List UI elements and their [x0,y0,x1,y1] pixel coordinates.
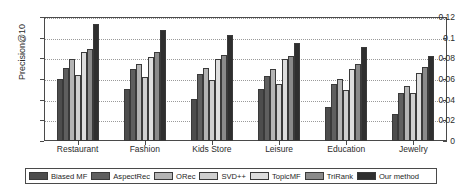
legend-swatch [250,172,269,180]
x-tick-mark [413,141,414,145]
legend-item[interactable]: AspectRec [91,172,150,181]
legend-swatch [154,172,173,180]
bar [227,35,233,141]
bar-chart-figure: Precision@10 00.020.040.060.080.10.12 Re… [0,0,460,193]
bar-group [57,17,99,141]
bar-group [124,17,166,141]
y-tick-mark [443,38,447,39]
legend-label: Our method [379,172,419,181]
bar [294,43,300,141]
x-tick-label: Jewelry [399,144,428,154]
y-tick-mark [443,100,447,101]
legend-swatch [29,172,48,180]
legend-label: SVD++ [221,172,245,181]
legend-label: TriRank [327,172,353,181]
bar-group [392,17,434,141]
y-tick-mark [443,120,447,121]
y-tick-mark [40,58,44,59]
y-tick-mark [443,79,447,80]
legend-swatch [305,172,324,180]
bar [160,30,166,141]
legend-item[interactable]: TopicMF [250,172,301,181]
x-tick-mark [78,141,79,145]
x-tick-label: Kids Store [192,144,231,154]
y-tick-mark [40,141,44,142]
y-tick-mark [443,58,447,59]
x-tick-label: Restaurant [57,144,99,154]
x-tick-mark [279,141,280,145]
y-tick-mark [443,17,447,18]
legend-item[interactable]: Our method [357,172,419,181]
legend-label: ORec [176,172,195,181]
bar [93,24,99,141]
y-tick-mark [40,79,44,80]
legend-swatch [357,172,376,180]
x-tick-mark [212,141,213,145]
legend-swatch [199,172,218,180]
y-tick-mark [40,17,44,18]
bar [428,56,434,141]
legend-label: Biased MF [51,172,87,181]
y-tick-mark [40,120,44,121]
x-tick-label: Leisure [265,144,293,154]
y-tick-mark [40,100,44,101]
x-tick-mark [346,141,347,145]
y-axis-label: Precision@10 [17,4,27,100]
bar-group [325,17,367,141]
legend-swatch [91,172,110,180]
chart-legend: Biased MFAspectRecORecSVD++TopicMFTriRan… [25,168,437,184]
y-tick-mark [40,38,44,39]
bar [361,47,367,141]
legend-label: TopicMF [272,172,301,181]
y-tick-mark [443,141,447,142]
bar-group [191,17,233,141]
legend-item[interactable]: Biased MF [29,172,87,181]
legend-item[interactable]: SVD++ [199,172,245,181]
x-tick-label: Fashion [130,144,160,154]
x-tick-label: Education [327,144,365,154]
legend-item[interactable]: TriRank [305,172,353,181]
legend-item[interactable]: ORec [154,172,195,181]
bar-series-container [44,17,447,141]
x-tick-mark [145,141,146,145]
y-tick-label: 0 [450,136,455,146]
bar-group [258,17,300,141]
legend-label: AspectRec [113,172,150,181]
